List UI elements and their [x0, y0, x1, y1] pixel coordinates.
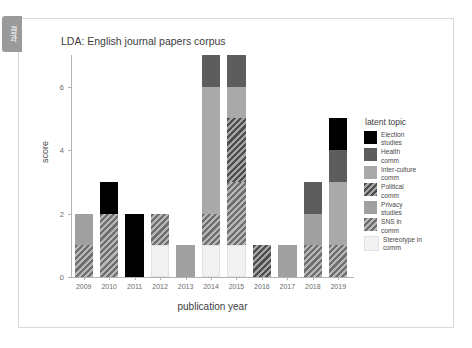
chart-title: LDA: English journal papers corpus	[61, 35, 226, 47]
bar-segment[interactable]	[304, 182, 322, 214]
legend-entry[interactable]: Election studies	[364, 131, 456, 147]
legend-entry[interactable]: Privacy studies	[364, 201, 456, 217]
legend-swatch	[364, 201, 377, 214]
bar-segment[interactable]	[202, 55, 220, 87]
slide-frame: LDA: English journal papers corpus score…	[18, 18, 454, 328]
legend-swatch	[364, 218, 377, 231]
bar-segment[interactable]	[304, 245, 322, 277]
x-tick-mark	[211, 277, 212, 280]
bar-segment[interactable]	[227, 87, 245, 119]
legend-swatch	[364, 148, 377, 161]
bar-segment[interactable]	[151, 214, 169, 246]
legend-entry[interactable]: Stereotype in comm	[364, 236, 456, 252]
x-tick-label: 2019	[323, 283, 353, 290]
legend-label: Political comm	[381, 183, 404, 199]
x-axis-line	[71, 277, 354, 278]
bar-group[interactable]	[227, 55, 245, 277]
x-tick-mark	[160, 277, 161, 280]
bar-segment[interactable]	[329, 150, 347, 182]
x-tick-mark	[84, 277, 85, 280]
legend-label: Privacy studies	[381, 201, 403, 217]
y-tick-label: 0	[48, 273, 64, 282]
legend-entry[interactable]: Inter-culture comm	[364, 166, 456, 182]
bar-segment[interactable]	[151, 245, 169, 277]
plot-panel	[71, 55, 351, 277]
x-tick-mark	[186, 277, 187, 280]
y-tick-label: 2	[48, 210, 64, 219]
bar-segment[interactable]	[202, 87, 220, 214]
legend-swatch	[364, 236, 379, 251]
bar-segment[interactable]	[227, 55, 245, 87]
legend-label: Inter-culture comm	[381, 166, 416, 182]
bar-group[interactable]	[329, 118, 347, 277]
bar-segment[interactable]	[202, 245, 220, 277]
x-tick-mark	[338, 277, 339, 280]
legend-label: SNS in comm	[381, 218, 402, 234]
bar-segment[interactable]	[278, 245, 296, 277]
bar-segment[interactable]	[227, 118, 245, 181]
bar-segment[interactable]	[75, 214, 93, 246]
bar-segment[interactable]	[125, 214, 143, 277]
bar-group[interactable]	[202, 55, 220, 277]
bar-group[interactable]	[151, 214, 169, 277]
x-tick-mark	[262, 277, 263, 280]
legend-entry[interactable]: Political comm	[364, 183, 456, 199]
section-tab[interactable]: 결과	[2, 16, 22, 52]
chart-legend: latent topic Election studiesHealth comm…	[364, 117, 456, 253]
legend-label: Health comm	[381, 148, 400, 164]
bar-segment[interactable]	[253, 245, 271, 277]
bar-segment[interactable]	[329, 245, 347, 277]
bar-segment[interactable]	[227, 182, 245, 245]
x-tick-mark	[313, 277, 314, 280]
bar-segment[interactable]	[329, 118, 347, 150]
bar-segment[interactable]	[304, 214, 322, 246]
bar-segment[interactable]	[100, 182, 118, 214]
bar-group[interactable]	[304, 182, 322, 277]
bar-group[interactable]	[125, 214, 143, 277]
legend-entry[interactable]: Health comm	[364, 148, 456, 164]
bar-segment[interactable]	[75, 245, 93, 277]
y-tick-label: 4	[48, 146, 64, 155]
legend-swatch	[364, 166, 377, 179]
legend-title: latent topic	[365, 117, 456, 127]
legend-entry[interactable]: SNS in comm	[364, 218, 456, 234]
x-tick-mark	[135, 277, 136, 280]
legend-label: Stereotype in comm	[383, 236, 422, 252]
legend-swatch	[364, 183, 377, 196]
bar-segment[interactable]	[227, 245, 245, 277]
bar-group[interactable]	[278, 245, 296, 277]
bar-group[interactable]	[253, 245, 271, 277]
bar-group[interactable]	[75, 214, 93, 277]
bar-segment[interactable]	[176, 245, 194, 277]
y-tick-label: 6	[48, 83, 64, 92]
chart-figure: LDA: English journal papers corpus score…	[19, 19, 455, 329]
bar-segment[interactable]	[202, 214, 220, 246]
x-axis-title: publication year	[71, 301, 354, 312]
x-tick-mark	[109, 277, 110, 280]
x-tick-mark	[236, 277, 237, 280]
bar-group[interactable]	[176, 245, 194, 277]
bar-segment[interactable]	[329, 182, 347, 245]
bar-group[interactable]	[100, 182, 118, 277]
section-tab-label: 결과	[8, 26, 16, 42]
bar-segment[interactable]	[100, 214, 118, 277]
legend-label: Election studies	[381, 131, 404, 147]
legend-swatch	[364, 131, 377, 144]
legend-entries: Election studiesHealth commInter-culture…	[364, 131, 456, 252]
x-tick-mark	[287, 277, 288, 280]
